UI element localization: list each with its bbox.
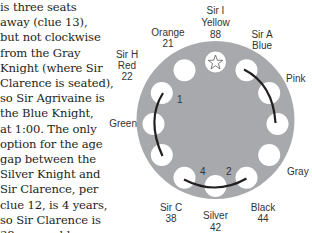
label-pink: Pink — [286, 73, 306, 84]
label-green: Green — [109, 118, 137, 129]
seat-7 — [174, 167, 196, 189]
label-age-22: 22 — [121, 71, 133, 82]
label-blue: Blue — [252, 40, 272, 51]
label-age-38: 38 — [165, 213, 177, 224]
label-silver: Silver — [203, 210, 229, 221]
label-age-44: 44 — [257, 213, 269, 224]
label-age-21: 21 — [162, 38, 174, 49]
label-age-88: 88 — [210, 29, 222, 40]
seat-2 — [258, 82, 280, 104]
arc-label-4: 4 — [200, 166, 206, 177]
label-sir-c: Sir C — [160, 202, 182, 213]
arc-label-1: 1 — [177, 94, 183, 105]
label-red: Red — [118, 60, 136, 71]
seat-4 — [258, 144, 280, 166]
seat-11 — [174, 59, 196, 81]
label-black: Black — [251, 202, 276, 213]
seat-12 — [205, 51, 227, 73]
label-age-42: 42 — [210, 222, 222, 233]
arc-label-2: 2 — [226, 166, 232, 177]
round-table-diagram: 1 4 2 Sir I Yellow 88 Sir A Blue Pink Gr… — [0, 0, 312, 233]
label-yellow: Yellow — [201, 17, 230, 28]
label-sir-h: Sir H — [116, 49, 138, 60]
label-sir-a: Sir A — [251, 29, 272, 40]
label-gray: Gray — [287, 166, 309, 177]
label-sir-i: Sir I — [207, 5, 225, 16]
seat-3 — [267, 113, 289, 135]
seat-5 — [236, 167, 258, 189]
label-orange: Orange — [151, 27, 185, 38]
